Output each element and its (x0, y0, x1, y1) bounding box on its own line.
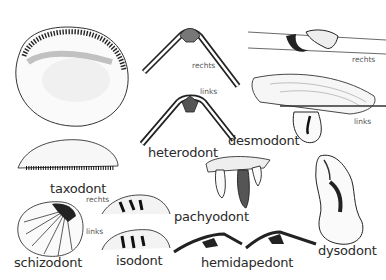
dysodont-label: dysodont (318, 244, 377, 257)
isodont-label: isodont (116, 254, 162, 267)
isodont-left-hinge-drawing (100, 224, 172, 252)
desmodont-left-label: links (354, 118, 371, 126)
desmodont-right-hinge-drawing (246, 24, 386, 58)
taxodont-shell-interior-drawing (12, 22, 132, 130)
schizodont-label: schizodont (14, 256, 82, 269)
heterodont-left-hinge-drawing (138, 92, 238, 148)
desmodont-right-label: rechts (352, 56, 375, 64)
heterodont-right-hinge-drawing (140, 20, 240, 90)
dysodont-shell-drawing (310, 152, 368, 248)
pachyodont-label: pachyodont (174, 210, 249, 223)
pachyodont-hinge-drawing (204, 154, 276, 212)
desmodont-label: desmodont (228, 134, 299, 147)
hemidapedont-left-hinge-drawing (172, 230, 244, 256)
taxodont-label: taxodont (50, 182, 106, 195)
schizodont-shell-drawing (12, 196, 84, 260)
isodont-right-hinge-drawing (100, 190, 172, 218)
hemidapedont-right-hinge-drawing (244, 228, 318, 254)
hemidapedont-label: hemidapedont (201, 256, 293, 269)
taxodont-shell-side-drawing (14, 138, 120, 178)
heterodont-right-label: rechts (192, 62, 215, 70)
